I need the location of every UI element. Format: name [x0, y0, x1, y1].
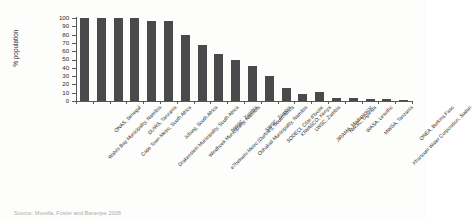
bar [315, 92, 324, 101]
bar [332, 98, 341, 101]
x-axis-tick-mark [126, 101, 127, 104]
y-axis-tick-label: 10 [39, 90, 69, 96]
x-axis-tick-mark [110, 101, 111, 104]
bar [248, 66, 257, 101]
x-axis-tick-mark [311, 101, 312, 104]
x-axis-tick-mark [76, 101, 77, 104]
x-axis-tick-mark [194, 101, 195, 104]
x-axis-tick-mark [328, 101, 329, 104]
bar [382, 99, 391, 101]
plot-area [76, 18, 412, 101]
bar [181, 35, 190, 101]
y-axis-tick-label: 80 [39, 32, 69, 38]
x-axis-tick-mark [210, 101, 211, 104]
y-axis-tick-label: 40 [39, 65, 69, 71]
x-axis-tick-mark [412, 101, 413, 104]
y-axis-tick-label: 30 [39, 73, 69, 79]
bar [80, 18, 89, 101]
x-axis-tick-mark [177, 101, 178, 104]
bar [97, 18, 106, 101]
x-axis-tick-mark [378, 101, 379, 104]
x-axis-tick-mark [93, 101, 94, 104]
bar [298, 94, 307, 101]
bar [231, 60, 240, 102]
x-axis-tick-mark [395, 101, 396, 104]
bar [164, 21, 173, 101]
bar [147, 21, 156, 101]
bar [198, 45, 207, 101]
x-axis-tick-mark [278, 101, 279, 104]
y-axis-tick-label: 100 [39, 15, 69, 21]
y-axis-tick-label: 60 [39, 48, 69, 54]
bar [366, 99, 375, 101]
bar [114, 18, 123, 101]
y-axis-tick-label: 90 [39, 23, 69, 29]
y-axis-tick-label: 50 [39, 56, 69, 62]
x-axis-tick-mark [244, 101, 245, 104]
x-axis-tick-mark [294, 101, 295, 104]
bar [130, 18, 139, 101]
y-axis-tick-label: 70 [39, 40, 69, 46]
x-axis-tick-mark [261, 101, 262, 104]
bar [282, 88, 291, 101]
x-axis-tick-mark [160, 101, 161, 104]
x-axis-tick-mark [345, 101, 346, 104]
bar [265, 76, 274, 101]
source-note: Source: Morella, Foster and Banerjee 200… [14, 210, 121, 216]
x-axis-tick-mark [227, 101, 228, 104]
y-axis-tick-label: 0 [39, 98, 69, 104]
bar [349, 98, 358, 101]
y-axis-title: % population [13, 8, 19, 88]
x-axis-tick-mark [362, 101, 363, 104]
bar [214, 54, 223, 101]
x-axis-tick-mark [143, 101, 144, 104]
y-axis-tick-label: 20 [39, 81, 69, 87]
bar [399, 100, 408, 101]
